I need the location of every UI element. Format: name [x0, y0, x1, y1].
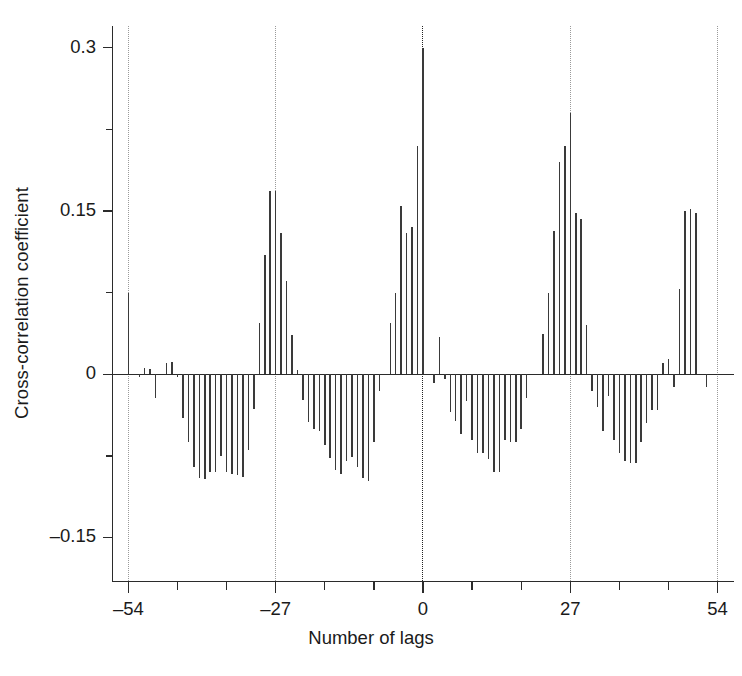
spike-bar — [450, 374, 452, 412]
spike-bar — [395, 293, 397, 375]
spike-bar — [662, 363, 664, 374]
x-tick-label: 0 — [393, 598, 453, 620]
spike-bar — [199, 374, 201, 477]
spike-bar — [291, 335, 293, 374]
spike-bar — [630, 374, 632, 463]
x-tick-minor — [619, 582, 620, 590]
spike-bar — [542, 334, 544, 374]
spike-bar — [635, 374, 637, 463]
spike-bar — [586, 325, 588, 374]
spike-bar — [215, 374, 217, 472]
spike-bar — [275, 191, 277, 374]
spike-bar — [139, 374, 141, 377]
spike-bar — [673, 374, 675, 387]
spike-bar — [302, 374, 304, 400]
x-tick-minor — [668, 582, 669, 590]
spike-bar — [608, 374, 610, 396]
spike-bar — [619, 374, 621, 452]
y-tick-label: 0.15 — [2, 199, 96, 221]
spike-bar — [526, 374, 528, 398]
y-tick-major — [103, 537, 112, 538]
spike-bar — [706, 374, 708, 387]
x-tick-label: 27 — [540, 598, 600, 620]
y-tick-major — [103, 374, 112, 375]
spike-bar — [400, 206, 402, 375]
spike-bar — [264, 255, 266, 375]
spike-bar — [362, 374, 364, 477]
spike-bar — [335, 374, 337, 470]
spike-bar — [297, 370, 299, 374]
spike-bar — [242, 374, 244, 476]
spike-bar — [580, 219, 582, 375]
spike-bar — [220, 374, 222, 456]
spike-bar — [346, 374, 348, 461]
spike-bar — [417, 146, 419, 375]
spike-bar — [602, 374, 604, 431]
spike-bar — [128, 293, 130, 375]
spike-bar — [657, 374, 659, 410]
spike-bar — [515, 374, 517, 441]
x-tick-minor — [226, 582, 227, 590]
spike-bar — [182, 374, 184, 418]
spike-bar — [209, 374, 211, 472]
spike-bar — [231, 374, 233, 474]
x-tick-major — [275, 582, 276, 593]
x-tick-label: –27 — [246, 598, 306, 620]
x-tick-minor — [324, 582, 325, 590]
spike-bar — [324, 374, 326, 445]
spike-bar — [668, 359, 670, 374]
spike-bar — [488, 374, 490, 459]
spike-bar — [679, 289, 681, 374]
spike-bar — [177, 374, 179, 377]
spike-bar — [564, 146, 566, 375]
spike-bar — [313, 374, 315, 428]
spike-bar — [390, 323, 392, 374]
spike-bar — [640, 374, 642, 441]
x-tick-major — [717, 582, 718, 593]
y-tick-label: 0 — [2, 362, 96, 384]
spike-bar — [379, 374, 381, 390]
spike-bar — [155, 374, 157, 398]
spike-bar — [520, 374, 522, 428]
spike-bar — [591, 374, 593, 390]
spike-bar — [553, 231, 555, 375]
spike-bar — [477, 374, 479, 452]
spike-bar — [504, 374, 506, 439]
spike-bar — [373, 374, 375, 441]
spike-bar — [237, 374, 239, 475]
spike-bar — [193, 374, 195, 467]
spike-bar — [570, 113, 572, 374]
spike-bar — [597, 374, 599, 407]
y-tick-major — [103, 210, 112, 211]
spike-bar — [646, 374, 648, 423]
spike-bar — [455, 374, 457, 421]
spike-bar — [368, 374, 370, 481]
x-tick-minor — [373, 582, 374, 590]
x-tick-major — [422, 582, 423, 593]
spike-bar — [406, 233, 408, 374]
spike-bar — [204, 374, 206, 478]
spike-bar — [351, 374, 353, 457]
spike-bar — [684, 211, 686, 374]
spike-bar — [340, 374, 342, 474]
x-tick-minor — [177, 582, 178, 590]
x-axis-title: Number of lags — [0, 627, 742, 649]
spike-bar — [559, 162, 561, 374]
spike-bar — [466, 374, 468, 401]
spike-bar — [433, 374, 435, 383]
x-tick-label: 54 — [688, 598, 742, 620]
spike-bar — [286, 281, 288, 375]
spike-bar — [695, 213, 697, 374]
x-tick-label: –54 — [98, 598, 158, 620]
spike-bar — [548, 293, 550, 375]
spike-bar — [471, 374, 473, 439]
spike-bar — [259, 323, 261, 374]
spike-bar — [460, 374, 462, 434]
spike-bar — [149, 369, 151, 374]
y-axis-title: Cross-correlation coefficient — [11, 73, 33, 533]
spike-bar — [613, 374, 615, 439]
spike-bar — [493, 374, 495, 472]
spike-bar — [444, 374, 446, 378]
spike-bar — [308, 374, 310, 422]
plot-area: 0.30.150–0.15 –54–2702754 — [112, 26, 734, 581]
